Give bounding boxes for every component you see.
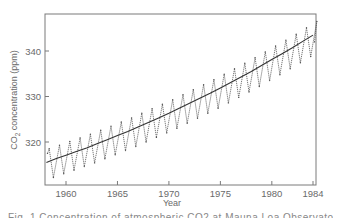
data-point: [141, 113, 142, 114]
x-tick-label: 1975: [210, 188, 231, 199]
data-point: [63, 173, 64, 174]
data-point: [110, 125, 111, 126]
data-point: [187, 123, 188, 124]
data-point: [197, 118, 198, 119]
x-tick-label: 1960: [55, 188, 76, 199]
data-point: [90, 134, 91, 135]
data-point: [203, 84, 204, 85]
data-point: [49, 148, 50, 149]
data-point: [69, 141, 70, 142]
data-point: [265, 51, 266, 52]
data-point: [269, 80, 270, 81]
y-axis-title-main: CO: [9, 136, 19, 150]
y-axis-title-rest: concentration (ppm): [9, 50, 19, 133]
data-point: [310, 56, 311, 57]
data-point: [314, 41, 315, 42]
data-point: [275, 45, 276, 46]
data-point: [290, 68, 291, 69]
data-point: [193, 89, 194, 90]
data-point: [254, 57, 255, 58]
data-point: [156, 137, 157, 138]
data-point: [104, 158, 105, 159]
data-series: [46, 21, 317, 179]
y-tick-label: 340: [25, 46, 41, 57]
data-point: [306, 27, 307, 28]
trend-line: [46, 35, 313, 162]
data-point: [172, 99, 173, 100]
y-axis-title: CO2 concentration (ppm): [9, 50, 21, 150]
data-point: [316, 21, 317, 22]
data-point: [285, 39, 286, 40]
y-tick-label: 330: [25, 91, 41, 102]
data-point: [166, 132, 167, 133]
data-point: [125, 150, 126, 151]
x-axis: 196019651970197519801984: [55, 181, 323, 199]
data-point: [224, 74, 225, 75]
data-point: [94, 162, 95, 163]
data-point: [228, 102, 229, 103]
data-point: [59, 145, 60, 146]
data-point: [248, 91, 249, 92]
data-point: [145, 141, 146, 142]
x-tick-label: 1984: [302, 188, 323, 199]
x-tick-label: 1965: [107, 188, 128, 199]
data-point: [151, 108, 152, 109]
x-axis-title: Year: [163, 198, 181, 208]
data-point: [131, 117, 132, 118]
figure-caption: Fig. 1 Concentration of atmospheric CO2 …: [8, 212, 333, 218]
data-point: [244, 63, 245, 64]
data-point: [135, 146, 136, 147]
data-point: [279, 74, 280, 75]
data-point: [47, 153, 48, 154]
x-tick-label: 1980: [261, 188, 282, 199]
data-point: [162, 104, 163, 105]
data-point: [238, 97, 239, 98]
data-point: [53, 177, 54, 178]
co2-line-chart: 196019651970197519801984 320330340 Year …: [0, 0, 337, 218]
data-point: [300, 62, 301, 63]
data-point: [176, 128, 177, 129]
data-point: [217, 108, 218, 109]
data-point: [259, 86, 260, 87]
data-point: [79, 137, 80, 138]
data-point: [182, 94, 183, 95]
y-tick-label: 320: [25, 137, 41, 148]
data-point: [115, 154, 116, 155]
data-point: [100, 130, 101, 131]
data-point: [84, 166, 85, 167]
data-point: [296, 34, 297, 35]
data-point: [73, 170, 74, 171]
data-point: [121, 121, 122, 122]
data-point: [234, 68, 235, 69]
monthly-co2-line: [48, 21, 317, 177]
data-point: [207, 113, 208, 114]
data-point: [213, 79, 214, 80]
